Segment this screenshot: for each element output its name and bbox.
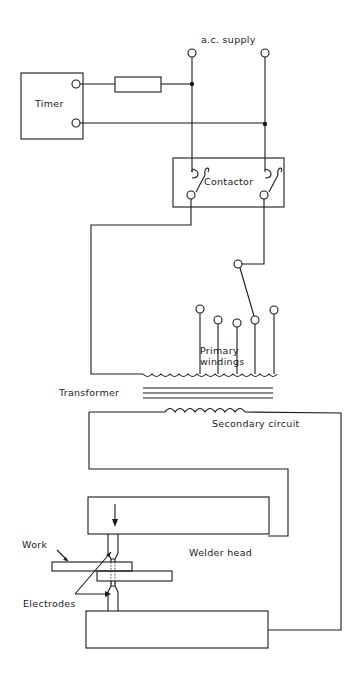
primary-winding-coil [143, 374, 277, 377]
timer-terminal-bottom [72, 119, 80, 127]
contactor-switch-right [260, 168, 282, 199]
secondary-circuit-label: Secondary circuit [212, 418, 300, 429]
tap-selector-link [240, 268, 254, 316]
electrodes-label: Electrodes [23, 598, 76, 609]
ac-supply-lines [188, 49, 269, 172]
contactor-label: Contactor [204, 176, 253, 187]
ac-supply-terminal-left [188, 49, 196, 57]
timer-label: Timer [35, 98, 64, 109]
transformer-core [143, 388, 273, 398]
timer-terminal-top [72, 80, 80, 88]
lower-electrode [108, 586, 118, 611]
tap-2 [214, 316, 222, 324]
tap-selector-terminal [234, 260, 242, 268]
electrode-leader-upper [75, 552, 111, 594]
primary-windings-label-2: windings [200, 356, 245, 367]
work-label: Work [22, 539, 47, 550]
secondary-loop-upper [89, 412, 288, 536]
lower-welder-arm [86, 611, 268, 648]
primary-feed-wire-right [242, 199, 264, 264]
primary-feed-wire-left [91, 199, 191, 374]
transformer-label: Transformer [59, 387, 119, 398]
work-piece-upper [52, 562, 132, 571]
secondary-winding-coil [89, 409, 341, 631]
tap-1 [196, 305, 204, 313]
primary-windings-label-1: Primary [200, 345, 239, 356]
tap-4 [251, 316, 259, 324]
tap-5 [270, 306, 278, 314]
work-piece-lower [97, 571, 172, 581]
ac-supply-terminal-right [261, 49, 269, 57]
welder-head-label: Welder head [189, 547, 252, 558]
resistor [115, 77, 161, 92]
junction-dot [263, 122, 267, 126]
ac-supply-label: a.c. supply [201, 34, 256, 45]
tap-3 [233, 319, 241, 327]
junction-dot [190, 82, 194, 86]
